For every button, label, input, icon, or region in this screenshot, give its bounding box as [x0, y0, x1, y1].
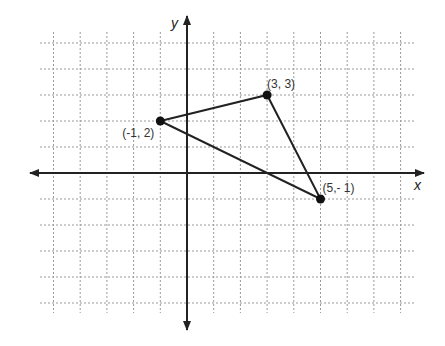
points: (-1, 2)(3, 3)(5,- 1) [122, 77, 354, 204]
x-axis-label: x [413, 177, 422, 193]
graph-canvas: y x (-1, 2)(3, 3)(5,- 1) [0, 0, 445, 346]
point-marker [156, 117, 165, 126]
point-label: (3, 3) [267, 77, 295, 91]
point-label: (-1, 2) [122, 126, 154, 140]
point-marker [263, 91, 272, 100]
point-label: (5,- 1) [323, 181, 355, 195]
coordinate-plane: y x (-1, 2)(3, 3)(5,- 1) [0, 0, 445, 346]
y-axis-label: y [170, 15, 179, 31]
point-marker [316, 195, 325, 204]
